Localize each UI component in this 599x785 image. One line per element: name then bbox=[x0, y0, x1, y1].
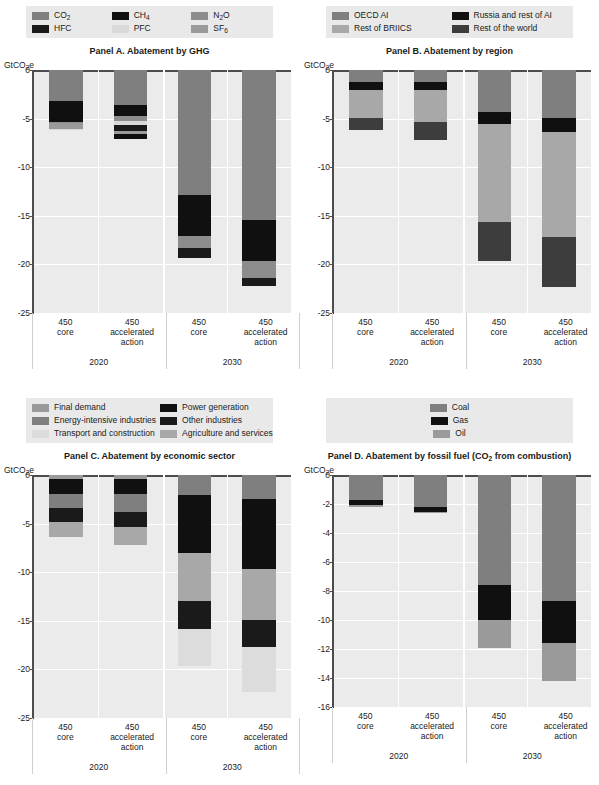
legend-item: PFC bbox=[112, 23, 188, 34]
stacked-bar bbox=[49, 475, 82, 718]
bar-segment bbox=[242, 220, 275, 262]
bar-segment bbox=[414, 475, 447, 507]
y-axis-tick-label: -2 bbox=[322, 499, 330, 509]
bar-segment bbox=[542, 643, 575, 681]
legend-swatch-icon bbox=[160, 430, 177, 438]
legend-label: Final demand bbox=[54, 402, 106, 413]
legend-swatch-icon bbox=[452, 12, 469, 20]
x-axis-year-label: 2020 bbox=[32, 357, 166, 367]
legend-swatch-icon bbox=[160, 404, 177, 412]
x-axis-year-group: 2020 bbox=[32, 313, 166, 369]
panel-c-legend: Final demandPower generationEnergy-inten… bbox=[26, 398, 273, 443]
bar-segment bbox=[49, 70, 82, 101]
legend-label: CO2 bbox=[54, 10, 70, 21]
bar-segment bbox=[178, 601, 211, 628]
legend-label: Russia and rest of AI bbox=[474, 10, 552, 21]
y-axis-tick-mark bbox=[330, 562, 334, 563]
column-separator bbox=[398, 475, 399, 707]
column-separator bbox=[163, 475, 165, 718]
column-separator bbox=[98, 475, 99, 718]
legend-item: Agriculture and services bbox=[160, 428, 273, 439]
panel-b: OECD AIRussia and rest of AIRest of BRII… bbox=[300, 0, 599, 392]
y-axis-tick-mark bbox=[330, 475, 334, 476]
bar-segment bbox=[242, 647, 275, 692]
panel-c-x-axis: 450core450acceleratedaction450core450acc… bbox=[32, 718, 299, 774]
panel-b-legend: OECD AIRussia and rest of AIRest of BRII… bbox=[326, 6, 573, 38]
bar-segment bbox=[114, 494, 147, 511]
panel-a-x-axis: 450core450acceleratedaction450core450acc… bbox=[32, 313, 299, 369]
y-axis-tick-label: -6 bbox=[322, 557, 330, 567]
bar-segment bbox=[478, 620, 511, 648]
y-axis-tick-mark bbox=[30, 475, 34, 476]
legend-item: Rest of BRIICS bbox=[332, 23, 448, 34]
stacked-bar bbox=[542, 475, 575, 707]
x-axis-year-label: 2020 bbox=[332, 751, 466, 761]
column-separator bbox=[463, 475, 465, 707]
panel-a-plot-area: 0-5-10-15-20-25 bbox=[4, 70, 291, 313]
stacked-bar bbox=[114, 475, 147, 718]
bar-segment bbox=[114, 479, 147, 495]
y-axis-tick-label: -5 bbox=[322, 114, 330, 124]
legend-item: OECD AI bbox=[332, 10, 448, 21]
bar-segment bbox=[49, 129, 82, 130]
bar-segment bbox=[414, 82, 447, 91]
bar-segment bbox=[349, 90, 382, 117]
bar-segment bbox=[178, 195, 211, 236]
panel-d-plot-area: 0-2-4-6-8-10-12-14-16 bbox=[304, 475, 591, 707]
panel-d-title: Panel D. Abatement by fossil fuel (CO2 f… bbox=[300, 451, 599, 461]
panel-c-plot: 0-5-10-15-20-25 bbox=[32, 475, 291, 718]
legend-item: Coal bbox=[430, 402, 469, 413]
y-axis-tick-label: -16 bbox=[318, 702, 330, 712]
bar-segment bbox=[178, 495, 211, 552]
bar-segment bbox=[49, 494, 82, 508]
column-separator bbox=[227, 475, 228, 718]
stacked-bar bbox=[349, 475, 382, 707]
y-axis-tick-label: -8 bbox=[322, 586, 330, 596]
stacked-bar bbox=[178, 475, 211, 718]
bar-segment bbox=[242, 620, 275, 647]
panel-d-y-unit: GtCO2e bbox=[304, 465, 599, 475]
legend-label: Agriculture and services bbox=[182, 428, 273, 439]
panel-c-title: Panel C. Abatement by economic sector bbox=[0, 451, 299, 461]
y-axis-tick-label: -15 bbox=[318, 211, 330, 221]
stacked-bar bbox=[414, 70, 447, 313]
stacked-bar bbox=[478, 475, 511, 707]
legend-swatch-icon bbox=[32, 430, 49, 438]
legend-label: SF6 bbox=[213, 23, 228, 34]
legend-label: HFC bbox=[54, 23, 71, 34]
legend-item: N2O bbox=[191, 10, 267, 21]
bar-segment bbox=[478, 585, 511, 620]
x-axis-year-group: 2030 bbox=[466, 707, 599, 763]
bar-segment bbox=[542, 601, 575, 643]
legend-swatch-icon bbox=[32, 404, 49, 412]
x-axis-year-group: 2030 bbox=[166, 313, 300, 369]
bar-segment bbox=[349, 70, 382, 82]
bar-segment bbox=[114, 512, 147, 527]
bar-segment bbox=[114, 134, 147, 139]
y-axis-tick-label: -5 bbox=[22, 114, 30, 124]
x-axis-year-group: 2020 bbox=[32, 718, 166, 774]
legend-label: Coal bbox=[452, 402, 469, 413]
bar-segment bbox=[114, 70, 147, 105]
y-axis-tick-mark bbox=[30, 264, 34, 265]
y-axis-tick-mark bbox=[30, 621, 34, 622]
panel-d-plot: 0-2-4-6-8-10-12-14-16 bbox=[332, 475, 591, 707]
legend-label: Other industries bbox=[182, 415, 242, 426]
bar-segment bbox=[242, 569, 275, 620]
bar-segment bbox=[178, 248, 211, 258]
x-axis-year-group: 2030 bbox=[166, 718, 300, 774]
legend-item: Transport and construction bbox=[32, 428, 156, 439]
column-separator bbox=[463, 70, 465, 313]
stacked-bar bbox=[242, 70, 275, 313]
legend-item: HFC bbox=[32, 23, 108, 34]
y-axis-tick-label: -12 bbox=[318, 644, 330, 654]
y-axis-tick-label: -5 bbox=[22, 519, 30, 529]
panel-a-legend: CO2CH4N2OHFCPFCSF6 bbox=[26, 6, 273, 38]
bar-segment bbox=[349, 118, 382, 131]
legend-item: Final demand bbox=[32, 402, 156, 413]
stacked-bar bbox=[49, 70, 82, 313]
legend-swatch-icon bbox=[160, 417, 177, 425]
stacked-bar bbox=[114, 70, 147, 313]
bar-segment bbox=[114, 105, 147, 116]
legend-item: SF6 bbox=[191, 23, 267, 34]
